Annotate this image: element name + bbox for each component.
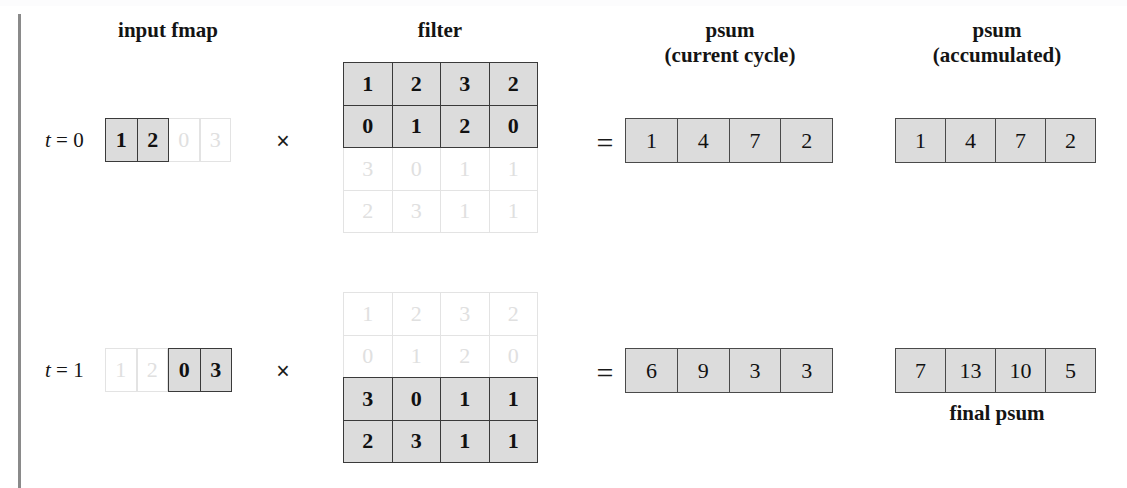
psum-current-cell: 2 — [780, 118, 833, 163]
filter-cell: 3 — [440, 62, 490, 106]
equals-operator-icon: = — [590, 128, 620, 158]
filter-cell: 1 — [489, 147, 539, 191]
timestep-label-1: t = 1 — [45, 358, 84, 383]
input-fmap-cell: 2 — [137, 348, 169, 392]
filter-cell: 1 — [489, 420, 539, 464]
psum-current-cell: 1 — [625, 118, 678, 163]
psum-accumulated-cell: 5 — [1045, 348, 1096, 393]
psum-accumulated-cell: 1 — [895, 118, 946, 163]
left-margin-rule — [18, 14, 21, 488]
filter-cell: 1 — [343, 62, 393, 106]
equals-operator-icon: = — [590, 358, 620, 388]
input-fmap-cell: 3 — [200, 118, 232, 162]
psum-current-cell: 3 — [729, 348, 782, 393]
filter-cell: 0 — [343, 335, 393, 379]
timestep-variable: t — [45, 128, 51, 152]
filter-cell: 1 — [489, 377, 539, 421]
filter-cell: 1 — [343, 292, 393, 336]
filter-cell: 2 — [343, 420, 393, 464]
filter-cell: 2 — [489, 292, 539, 336]
multiply-operator-icon: × — [268, 130, 298, 153]
filter-cell: 0 — [392, 377, 442, 421]
figure-canvas: input fmap filter psum (current cycle) p… — [0, 0, 1127, 488]
filter-cell: 2 — [343, 190, 393, 234]
scan-artifact-strip — [0, 0, 1127, 6]
filter-cell: 3 — [392, 190, 442, 234]
filter-cell: 1 — [440, 190, 490, 234]
filter-cell: 3 — [343, 147, 393, 191]
timestep-label-0: t = 0 — [45, 128, 84, 153]
timestep-equals: = — [56, 128, 68, 152]
filter-cell: 1 — [440, 420, 490, 464]
filter-cell: 3 — [440, 292, 490, 336]
filter-cell: 1 — [440, 147, 490, 191]
header-psum-current-line2: (current cycle) — [650, 43, 810, 68]
filter-cell: 0 — [489, 105, 539, 149]
filter-cell: 1 — [392, 335, 442, 379]
final-psum-label: final psum — [917, 401, 1077, 426]
input-fmap-cell: 0 — [168, 348, 201, 392]
psum-accumulated-cell: 2 — [1045, 118, 1096, 163]
input-fmap-cell: 1 — [105, 118, 138, 162]
header-input-fmap: input fmap — [88, 18, 248, 43]
filter-cell: 2 — [392, 292, 442, 336]
psum-accumulated-cell: 7 — [995, 118, 1046, 163]
filter-cell: 3 — [343, 377, 393, 421]
multiply-operator-icon: × — [268, 360, 298, 383]
psum-accumulated-cell: 4 — [945, 118, 996, 163]
filter-cell: 3 — [392, 420, 442, 464]
header-psum-accumulated-line2: (accumulated) — [917, 43, 1077, 68]
timestep-variable: t — [45, 358, 51, 382]
psum-current-cell: 9 — [677, 348, 730, 393]
filter-cell: 2 — [440, 335, 490, 379]
psum-current-cell: 7 — [729, 118, 782, 163]
input-fmap-cell: 0 — [168, 118, 200, 162]
psum-accumulated-cell: 13 — [945, 348, 996, 393]
header-psum-accumulated-line1: psum — [917, 18, 1077, 43]
header-psum-current-line1: psum — [650, 18, 810, 43]
psum-current-cell: 4 — [677, 118, 730, 163]
psum-accumulated-cell: 7 — [895, 348, 946, 393]
filter-cell: 0 — [343, 105, 393, 149]
header-filter: filter — [360, 18, 520, 43]
filter-cell: 1 — [489, 190, 539, 234]
filter-cell: 2 — [489, 62, 539, 106]
filter-cell: 0 — [392, 147, 442, 191]
filter-cell: 1 — [392, 105, 442, 149]
timestep-equals: = — [56, 358, 68, 382]
input-fmap-cell: 2 — [137, 118, 170, 162]
psum-accumulated-cell: 10 — [995, 348, 1046, 393]
psum-current-cell: 6 — [625, 348, 678, 393]
filter-cell: 1 — [440, 377, 490, 421]
input-fmap-cell: 3 — [200, 348, 233, 392]
timestep-value: 1 — [73, 358, 84, 382]
timestep-value: 0 — [73, 128, 84, 152]
input-fmap-cell: 1 — [105, 348, 137, 392]
psum-current-cell: 3 — [780, 348, 833, 393]
filter-cell: 0 — [489, 335, 539, 379]
filter-cell: 2 — [392, 62, 442, 106]
filter-cell: 2 — [440, 105, 490, 149]
